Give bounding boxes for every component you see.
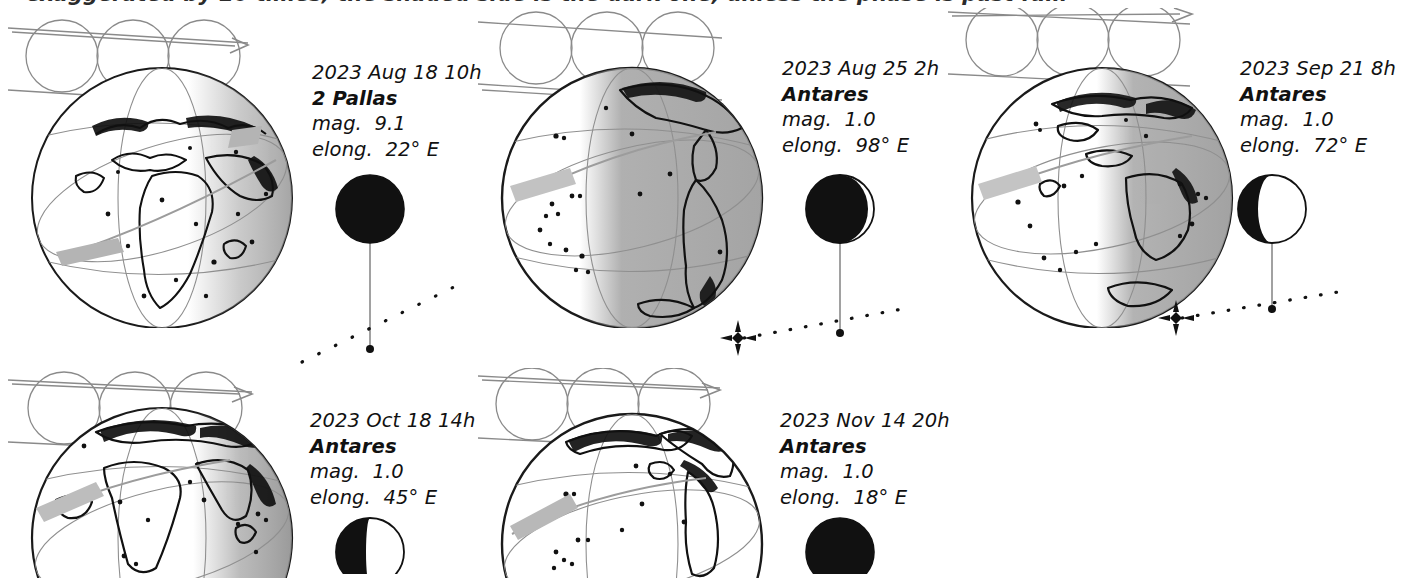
event-datetime: 2023 Oct 18 14h <box>310 408 475 434</box>
apparent-path-dots-1 <box>302 280 468 362</box>
apparent-path-dots-3 <box>1182 292 1338 318</box>
mag-label: mag. <box>312 111 362 137</box>
mag-value: 1.0 <box>1303 107 1334 133</box>
star-path-svg-2 <box>718 298 948 358</box>
event-datetime: 2023 Aug 25 2h <box>782 56 939 82</box>
mag-value: 1.0 <box>373 459 404 485</box>
elong-label: elong. <box>312 137 373 163</box>
event-object-name: Antares <box>1240 82 1396 108</box>
globe-svg-2 <box>470 8 800 328</box>
occultation-panel-2: 2023 Aug 25 2h Antares mag. 1.0 elong. 9… <box>470 8 940 328</box>
elong-label: elong. <box>780 485 841 511</box>
event-elongation: elong. 45° E <box>310 485 475 511</box>
elong-value: 72° E <box>1314 133 1368 159</box>
header-text: exaggerated by 20 times; the shaded side… <box>26 0 1068 6</box>
globe-svg-1 <box>0 8 330 328</box>
event-magnitude: mag. 1.0 <box>1240 107 1396 133</box>
moon-phase-disk-5 <box>770 514 970 578</box>
elong-value: 22° E <box>386 137 440 163</box>
event-datetime: 2023 Sep 21 8h <box>1240 56 1396 82</box>
event-magnitude: mag. 9.1 <box>312 111 482 137</box>
event-caption-2: 2023 Aug 25 2h Antares mag. 1.0 elong. 9… <box>782 56 939 158</box>
event-magnitude: mag. 1.0 <box>310 459 475 485</box>
star-path-svg-3 <box>1156 280 1386 340</box>
mag-label: mag. <box>1240 107 1290 133</box>
mag-label: mag. <box>310 459 360 485</box>
moon-svg-5 <box>770 514 970 574</box>
mag-value: 1.0 <box>843 459 874 485</box>
event-magnitude: mag. 1.0 <box>782 107 939 133</box>
event-caption-3: 2023 Sep 21 8h Antares mag. 1.0 elong. 7… <box>1240 56 1396 158</box>
occultation-panel-5: 2023 Nov 14 20h Antares mag. 1.0 elong. … <box>470 368 940 582</box>
event-object-name: Antares <box>782 82 939 108</box>
star-glyph-3 <box>1158 300 1194 336</box>
occultation-panel-3: 2023 Sep 21 8h Antares mag. 1.0 elong. 7… <box>940 8 1409 328</box>
globe-diagram-5 <box>470 368 800 582</box>
mag-label: mag. <box>782 107 832 133</box>
mag-value: 1.0 <box>845 107 876 133</box>
globe-svg-5 <box>470 368 800 578</box>
elong-value: 98° E <box>856 133 910 159</box>
event-object-name: 2 Pallas <box>312 86 482 112</box>
globe-svg-4 <box>0 368 330 578</box>
occultation-panel-4: 2023 Oct 18 14h Antares mag. 1.0 elong. … <box>0 368 470 582</box>
event-object-name: Antares <box>310 434 475 460</box>
earth-globe-4 <box>24 408 300 578</box>
event-elongation: elong. 22° E <box>312 137 482 163</box>
globe-diagram-1 <box>0 8 330 328</box>
earth-globe-2 <box>494 68 770 328</box>
elong-label: elong. <box>1240 133 1301 159</box>
event-elongation: elong. 72° E <box>1240 133 1396 159</box>
star-glyph-2 <box>720 320 756 356</box>
elong-label: elong. <box>310 485 371 511</box>
event-datetime: 2023 Aug 18 10h <box>312 60 482 86</box>
event-datetime: 2023 Nov 14 20h <box>780 408 950 434</box>
event-caption-4: 2023 Oct 18 14h Antares mag. 1.0 elong. … <box>310 408 475 510</box>
globe-diagram-2 <box>470 8 800 328</box>
event-caption-5: 2023 Nov 14 20h Antares mag. 1.0 elong. … <box>780 408 950 510</box>
elong-label: elong. <box>782 133 843 159</box>
elong-value: 45° E <box>384 485 438 511</box>
elong-value: 18° E <box>854 485 908 511</box>
apparent-path-dots-2 <box>744 308 908 338</box>
star-path-3 <box>1156 280 1386 344</box>
earth-globe-5 <box>495 414 769 578</box>
event-elongation: elong. 98° E <box>782 133 939 159</box>
globe-diagram-4 <box>0 368 330 582</box>
star-path-2 <box>718 298 948 362</box>
earth-globe-1 <box>22 68 301 328</box>
mag-label: mag. <box>780 459 830 485</box>
mag-value: 9.1 <box>375 111 406 137</box>
occultation-panel-1: 2023 Aug 18 10h 2 Pallas mag. 9.1 elong.… <box>0 8 470 328</box>
event-caption-1: 2023 Aug 18 10h 2 Pallas mag. 9.1 elong.… <box>312 60 482 162</box>
event-magnitude: mag. 1.0 <box>780 459 950 485</box>
event-object-name: Antares <box>780 434 950 460</box>
event-elongation: elong. 18° E <box>780 485 950 511</box>
